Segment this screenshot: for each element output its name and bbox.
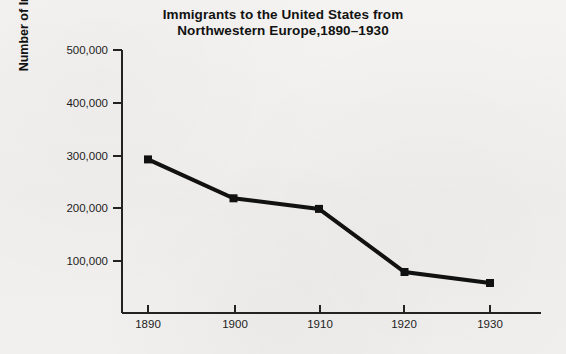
data-point-1910 (315, 205, 323, 213)
data-series-line (148, 159, 490, 283)
data-point-1930 (486, 279, 494, 287)
data-point-1900 (230, 194, 238, 202)
line-chart: Immigrants to the United States from Nor… (0, 0, 566, 354)
data-point-1890 (144, 155, 152, 163)
plot-area (0, 0, 566, 354)
data-series-markers (144, 155, 494, 287)
data-point-1920 (401, 268, 409, 276)
